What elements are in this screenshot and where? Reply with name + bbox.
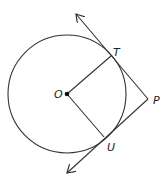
label-u: U [107, 141, 115, 154]
label-p: P [153, 94, 160, 107]
radius-ou [67, 94, 104, 137]
label-t: T [113, 46, 121, 59]
geometry-diagram: O T U P [0, 0, 166, 183]
label-o: O [54, 88, 63, 101]
tangent-ray-pu [67, 99, 148, 173]
radius-ot [67, 56, 111, 94]
center-point-o [65, 92, 70, 97]
tangent-ray-pt [76, 14, 148, 99]
